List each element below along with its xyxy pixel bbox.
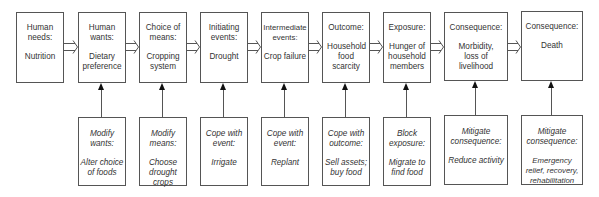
box-head: Cope with outcome:: [323, 129, 369, 149]
box-outcome: Outcome: Household food scarcity: [322, 12, 370, 83]
arrow-up-icon: [342, 83, 348, 90]
box-choice-of-means: Choice of means: Cropping system: [139, 12, 187, 83]
connector-line: [406, 89, 407, 117]
box-head: Outcome:: [323, 23, 369, 33]
box-body: Migrate to find food: [384, 158, 430, 178]
box-body: Reduce activity: [445, 156, 507, 166]
arrow-up-icon: [403, 83, 409, 90]
double-arrow-icon: [126, 40, 139, 54]
box-head: Human needs:: [17, 23, 63, 43]
box-cope-outcome: Cope with outcome: Sell assets; buy food: [322, 117, 370, 186]
box-body: Emergency relief, recovery, rehabilitati…: [522, 156, 582, 186]
arrow-up-icon: [548, 81, 554, 88]
box-head: Block exposure:: [384, 129, 430, 149]
box-cope-event-replant: Cope with event: Replant: [261, 117, 309, 186]
connector-line: [223, 89, 224, 117]
arrow-up-icon: [159, 83, 165, 90]
box-body: Morbidity, loss of livelihood: [445, 42, 507, 72]
double-arrow-icon: [187, 40, 200, 54]
box-head: Cope with event:: [201, 129, 247, 149]
box-consequence-morbidity: Consequence: Morbidity, loss of liveliho…: [444, 12, 508, 81]
box-head: Intermediate events:: [262, 23, 308, 43]
box-cope-event-irrigate: Cope with event: Irrigate: [200, 117, 248, 186]
box-body: Irrigate: [201, 158, 247, 168]
arrow-up-icon: [98, 83, 104, 90]
box-body: Crop failure: [262, 52, 308, 62]
box-head: Exposure:: [384, 23, 430, 33]
box-body: Nutrition: [17, 52, 63, 62]
connector-line: [551, 88, 552, 115]
box-body: Alter choice of foods: [79, 158, 125, 178]
box-head: Mitigate consequence:: [445, 127, 507, 147]
box-head: Modify means:: [140, 129, 186, 149]
box-head: Modify wants:: [79, 129, 125, 149]
box-body: Household food scarcity: [323, 42, 369, 72]
box-body: Hunger of household members: [384, 42, 430, 72]
box-body: Drought: [201, 52, 247, 62]
box-head: Cope with event:: [262, 129, 308, 149]
double-arrow-icon: [309, 40, 322, 54]
box-human-wants: Human wants: Dietary preference: [78, 12, 126, 83]
double-arrow-icon: [508, 40, 521, 54]
box-head: Choice of means:: [140, 23, 186, 43]
box-modify-means: Modify means: Choose drought crops: [139, 117, 187, 186]
connector-line: [345, 89, 346, 117]
double-arrow-icon: [370, 40, 383, 54]
box-body: Dietary preference: [79, 52, 125, 72]
box-initiating-events: Initiating events: Drought: [200, 12, 248, 83]
box-head: Mitigate consequence:: [522, 127, 582, 147]
box-body: Death: [522, 41, 582, 51]
box-body: Sell assets; buy food: [323, 158, 369, 178]
double-arrow-icon: [431, 40, 444, 54]
connector-line: [101, 89, 102, 117]
box-head: Consequence:: [445, 23, 507, 33]
arrow-up-icon: [281, 83, 287, 90]
box-head: Consequence:: [522, 22, 582, 32]
box-head: Initiating events:: [201, 23, 247, 43]
box-mitigate-reduce-activity: Mitigate consequence: Reduce activity: [444, 115, 508, 185]
box-consequence-death: Consequence: Death: [521, 11, 583, 81]
double-arrow-icon: [248, 40, 261, 54]
box-intermediate-events: Intermediate events: Crop failure: [261, 12, 309, 83]
box-body: Replant: [262, 158, 308, 168]
connector-line: [284, 89, 285, 117]
box-head: Human wants:: [79, 23, 125, 43]
box-mitigate-emergency-relief: Mitigate consequence: Emergency relief, …: [521, 115, 583, 185]
box-exposure: Exposure: Hunger of household members: [383, 12, 431, 83]
arrow-up-icon: [220, 83, 226, 90]
arrow-up-icon: [472, 81, 478, 88]
box-body: Choose drought crops: [140, 158, 186, 188]
double-arrow-icon: [64, 40, 78, 54]
box-human-needs: Human needs: Nutrition: [16, 12, 64, 83]
box-body: Cropping system: [140, 52, 186, 72]
connector-line: [475, 88, 476, 115]
box-modify-wants: Modify wants: Alter choice of foods: [78, 117, 126, 186]
connector-line: [162, 89, 163, 117]
box-block-exposure: Block exposure: Migrate to find food: [383, 117, 431, 186]
